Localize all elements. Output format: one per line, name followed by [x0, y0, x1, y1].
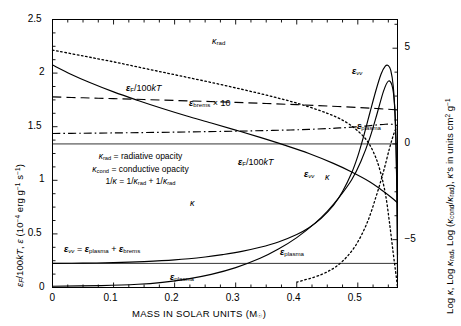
curve-epsilon_plasma_falling_tail [297, 127, 398, 282]
left-y-tick-label: 2 [39, 66, 45, 77]
figure-root: εF/100kT, ε (10−4 erg g−1 s−1) Log κ, Lo… [0, 0, 461, 326]
epsilon-brems-label: εbrems × 10 [189, 98, 231, 108]
legend-box: κrad = radiative opacity κcond = conduct… [58, 150, 223, 188]
right-y-tick-label: 5 [405, 41, 411, 52]
epsilon-plasma-low-label: εplasma [170, 272, 194, 282]
left-y-tick-label: 2.5 [28, 13, 42, 24]
epsilon-nunu-mid-label: ενν [304, 169, 314, 179]
x-axis-title: MASS IN SOLAR UNITS (M☉) [132, 308, 266, 320]
x-tick-label: 0.2 [165, 292, 179, 303]
left-y-tick-label: 0.5 [28, 227, 42, 238]
kappa-left-label: κ [190, 198, 195, 208]
epsilon-nunu-sum-label: ενν = εplasma + εbrems [64, 244, 140, 254]
epsilon-f-upper-label: εF/100kT [126, 83, 162, 93]
epsilon-plasma-mid-label: εplasma [280, 247, 304, 257]
curve-kappa_total [53, 124, 398, 133]
legend-line-3: 1/κ = 1/κrad + 1/κrad [58, 175, 223, 188]
epsilon-plasma-upper-label: εplasma [357, 121, 381, 131]
left-y-tick-label: 0 [39, 281, 45, 292]
x-tick-label: 0.5 [348, 292, 362, 303]
right-axis-title: Log κ, Log κrad, Log (κcond/κrad), κ's i… [444, 98, 455, 314]
legend-line-2: κcond = conductive opacity [58, 163, 223, 176]
kappa-rad-label: κrad [212, 36, 225, 46]
left-y-tick-label: 1.5 [28, 120, 42, 131]
right-y-tick-label: −5 [405, 233, 416, 244]
kappa-right-label: κ [325, 172, 330, 182]
x-tick-label: 0.1 [104, 292, 118, 303]
left-y-tick-label: 1 [39, 173, 45, 184]
epsilon-nunu-upper-label: ενν [352, 66, 362, 76]
x-tick-label: 0 [50, 292, 56, 303]
epsilon-f-lower-label: εF/100kT [238, 157, 274, 167]
x-tick-label: 0.3 [226, 292, 240, 303]
x-tick-label: 0.4 [287, 292, 301, 303]
legend-line-1: κrad = radiative opacity [58, 150, 223, 163]
left-axis-title: εF/100kT, ε (10−4 erg g−1 s−1) [14, 164, 25, 287]
right-y-tick-label: 0 [405, 137, 411, 148]
